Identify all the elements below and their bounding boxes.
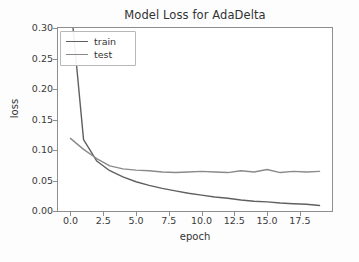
chart-figure: Model Loss for AdaDelta loss 0.000.050.1… [0,0,359,262]
y-tick-label: 0.05 [21,175,53,186]
series-line-test [70,138,319,172]
y-tick-mark [53,211,57,212]
y-tick-mark [53,28,57,29]
y-tick-mark [53,181,57,182]
x-axis-label: epoch [57,231,333,242]
legend-label: train [94,35,116,48]
y-tick-label: 0.00 [21,205,53,216]
x-tick-label: 17.5 [280,215,320,226]
legend-label: test [94,48,112,61]
x-tick-mark [267,212,268,216]
legend: traintest [60,31,136,66]
y-tick-label: 0.10 [21,144,53,155]
y-tick-label: 0.30 [21,22,53,33]
y-tick-mark [53,89,57,90]
y-tick-label: 0.25 [21,53,53,64]
y-tick-mark [53,120,57,121]
x-tick-mark [300,212,301,216]
x-tick-mark [169,212,170,216]
y-axis-tick-labels: 0.000.050.100.150.200.250.30 [17,27,53,212]
legend-swatch-train [66,41,88,42]
x-tick-mark [70,212,71,216]
x-tick-mark [136,212,137,216]
legend-item-train: train [66,35,130,48]
y-tick-mark [53,59,57,60]
chart-title: Model Loss for AdaDelta [57,8,333,22]
legend-item-test: test [66,48,130,61]
y-tick-mark [53,150,57,151]
legend-swatch-test [66,54,88,55]
x-tick-mark [103,212,104,216]
x-axis-tick-labels: 0.02.55.07.510.012.515.017.5 [57,215,333,229]
y-tick-label: 0.15 [21,114,53,125]
x-tick-mark [202,212,203,216]
x-tick-mark [234,212,235,216]
y-tick-label: 0.20 [21,83,53,94]
